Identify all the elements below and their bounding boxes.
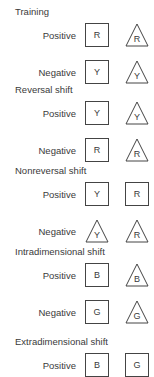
triangle-stimulus: R — [125, 219, 149, 243]
triangle-stimulus: B — [125, 263, 149, 287]
stimulus-letter: Y — [85, 230, 109, 240]
square-stimulus: G — [85, 300, 109, 324]
row-label: Negative — [39, 145, 77, 156]
section-title: Intradimensional shift — [15, 246, 105, 257]
row-label: Positive — [43, 189, 76, 200]
stimulus-letter: R — [125, 149, 149, 159]
row-label: Positive — [43, 360, 76, 371]
stimulus-letter: R — [125, 34, 149, 44]
triangle-stimulus: Y — [125, 60, 149, 84]
triangle-stimulus: Y — [85, 219, 109, 243]
row-label: Negative — [39, 67, 77, 78]
row-label: Negative — [39, 226, 77, 237]
triangle-stimulus: R — [125, 23, 149, 47]
square-stimulus: Y — [85, 60, 109, 84]
stimulus-letter: Y — [125, 112, 149, 122]
stimulus-letter: R — [125, 230, 149, 240]
row-label: Positive — [43, 108, 76, 119]
triangle-stimulus: R — [125, 138, 149, 162]
section-title: Extradimensional shift — [15, 336, 108, 347]
triangle-stimulus: Y — [125, 101, 149, 125]
square-stimulus: R — [85, 23, 109, 47]
section-title: Training — [15, 6, 49, 17]
stimulus-letter: B — [125, 274, 149, 284]
square-stimulus: Y — [85, 101, 109, 125]
section-title: Reversal shift — [15, 84, 73, 95]
square-stimulus: G — [125, 353, 149, 377]
triangle-stimulus: G — [125, 300, 149, 324]
square-stimulus: B — [85, 263, 109, 287]
section-title: Nonreversal shift — [15, 165, 86, 176]
square-stimulus: B — [85, 353, 109, 377]
square-stimulus: Y — [85, 182, 109, 206]
row-label: Positive — [43, 30, 76, 41]
square-stimulus: R — [85, 138, 109, 162]
row-label: Positive — [43, 270, 76, 281]
row-label: Negative — [39, 307, 77, 318]
square-stimulus: R — [125, 182, 149, 206]
stimulus-letter: Y — [125, 71, 149, 81]
stimulus-letter: G — [125, 311, 149, 321]
